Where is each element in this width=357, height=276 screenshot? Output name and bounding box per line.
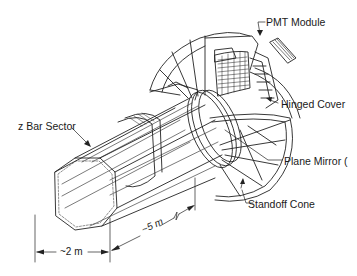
pmt-module-label: PMT Module	[266, 17, 325, 28]
z-bar-sector-label: z Bar Sector	[18, 121, 76, 132]
hinged-cover-label: Hinged Cover	[281, 99, 345, 110]
standoff-cone-fan	[150, 32, 300, 201]
leader-lines	[72, 22, 282, 203]
detector-diagram	[0, 0, 357, 276]
bar-box-tube	[55, 82, 222, 230]
standoff-cone-label: Standoff Cone	[248, 199, 315, 210]
pmt-module-part	[270, 38, 296, 63]
plane-mirror-label: Plane Mirror (	[284, 156, 348, 167]
diameter-dimension-label: ~2 m	[60, 247, 83, 257]
